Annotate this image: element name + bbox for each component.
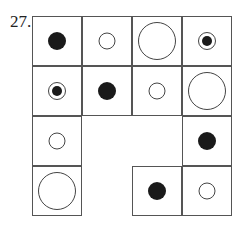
grid-cell xyxy=(132,66,182,116)
small-circle-icon xyxy=(49,133,66,150)
grid-cell xyxy=(32,166,82,216)
grid-cell xyxy=(82,16,132,66)
small-circle-icon xyxy=(99,33,116,50)
target-icon xyxy=(48,82,66,100)
target-icon xyxy=(198,32,216,50)
grid-cell xyxy=(182,116,232,166)
filled-dot-icon xyxy=(98,82,116,100)
filled-dot-icon xyxy=(48,32,66,50)
filled-dot-icon xyxy=(148,182,166,200)
large-circle-icon xyxy=(188,72,226,110)
grid-cell xyxy=(32,66,82,116)
large-circle-icon xyxy=(38,172,76,210)
grid-cell xyxy=(182,16,232,66)
grid-cell xyxy=(32,16,82,66)
small-circle-icon xyxy=(199,183,216,200)
grid-cell xyxy=(132,16,182,66)
grid-cell xyxy=(32,116,82,166)
grid-cell xyxy=(132,166,182,216)
filled-dot-icon xyxy=(198,132,216,150)
problem-number: 27. xyxy=(10,12,31,32)
large-circle-icon xyxy=(138,22,176,60)
grid-cell xyxy=(82,66,132,116)
grid-cell xyxy=(182,66,232,116)
small-circle-icon xyxy=(149,83,166,100)
grid-cell xyxy=(182,166,232,216)
